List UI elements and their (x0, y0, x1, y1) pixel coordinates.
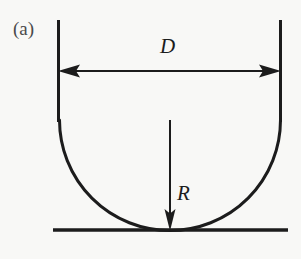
diameter-label: D (160, 36, 175, 57)
panel-label: (a) (13, 19, 34, 38)
radius-label: R (177, 183, 190, 204)
figure-panel-a: (a) D R (0, 0, 301, 259)
diagram-canvas (0, 0, 301, 259)
